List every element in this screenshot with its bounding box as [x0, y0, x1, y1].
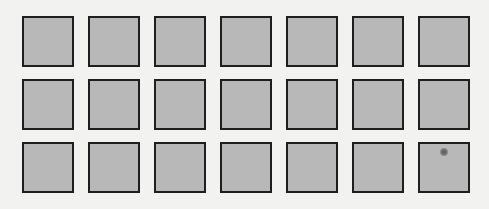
smudge-mark	[440, 148, 448, 156]
square-r2-c7	[418, 79, 470, 130]
square-r2-c5	[286, 79, 338, 130]
square-r3-c6	[352, 142, 404, 193]
square-r3-c5	[286, 142, 338, 193]
square-r1-c5	[286, 16, 338, 67]
square-r1-c6	[352, 16, 404, 67]
square-r1-c4	[220, 16, 272, 67]
square-r2-c4	[220, 79, 272, 130]
square-r3-c1	[22, 142, 74, 193]
square-r2-c2	[88, 79, 140, 130]
square-r3-c3	[154, 142, 206, 193]
square-r1-c2	[88, 16, 140, 67]
square-r2-c6	[352, 79, 404, 130]
square-r1-c7	[418, 16, 470, 67]
square-r1-c1	[22, 16, 74, 67]
square-r2-c1	[22, 79, 74, 130]
square-grid	[22, 16, 470, 193]
square-r1-c3	[154, 16, 206, 67]
square-r3-c7	[418, 142, 470, 193]
square-r2-c3	[154, 79, 206, 130]
square-r3-c4	[220, 142, 272, 193]
square-r3-c2	[88, 142, 140, 193]
